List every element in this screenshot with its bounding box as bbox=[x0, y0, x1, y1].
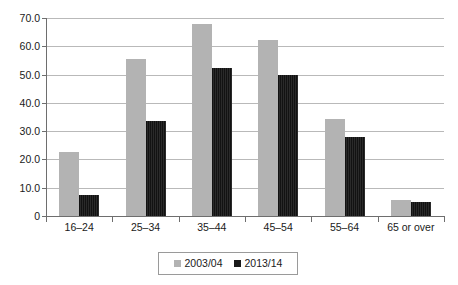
y-axis-tick-label: 30.0 bbox=[0, 126, 40, 136]
x-axis-group-tick bbox=[378, 217, 379, 222]
x-axis-tick-label: 35–44 bbox=[179, 221, 245, 233]
bar bbox=[278, 75, 298, 216]
gridline bbox=[46, 131, 444, 132]
x-axis-tick-label: 65 or over bbox=[378, 221, 444, 233]
y-axis-tick-label: 60.0 bbox=[0, 41, 40, 51]
y-axis-tick-label: 50.0 bbox=[0, 70, 40, 80]
bar bbox=[391, 200, 411, 216]
y-axis-tick-label: 0 bbox=[0, 211, 40, 221]
plot-area bbox=[46, 18, 444, 216]
x-axis-tick-label: 25–34 bbox=[112, 221, 178, 233]
x-axis-end-tick bbox=[46, 217, 47, 222]
x-axis-group-tick bbox=[112, 217, 113, 222]
legend: 2003/04 2013/14 bbox=[158, 252, 298, 275]
bar bbox=[345, 137, 365, 216]
bar bbox=[258, 40, 278, 216]
gridline bbox=[46, 75, 444, 76]
x-axis-tick-label: 16–24 bbox=[46, 221, 112, 233]
x-axis-group-tick bbox=[311, 217, 312, 222]
bar bbox=[212, 68, 232, 217]
gridline bbox=[46, 46, 444, 47]
bar bbox=[146, 121, 166, 216]
legend-swatch-icon-series-0 bbox=[174, 260, 181, 267]
bar bbox=[59, 152, 79, 216]
y-axis-tick-label: 70.0 bbox=[0, 13, 40, 23]
y-axis-tick-label: 10.0 bbox=[0, 183, 40, 193]
bar-chart: 70.060.050.040.030.020.010.00 16–2425–34… bbox=[0, 0, 458, 285]
bar bbox=[325, 119, 345, 216]
legend-item-series-1[interactable]: 2013/14 bbox=[234, 258, 283, 269]
bar bbox=[411, 202, 431, 216]
legend-swatch-icon-series-1 bbox=[234, 260, 241, 267]
bar bbox=[126, 59, 146, 216]
y-axis-line bbox=[46, 18, 47, 217]
y-axis-tick-label: 40.0 bbox=[0, 98, 40, 108]
gridline bbox=[46, 18, 444, 19]
y-axis-tick-label: 20.0 bbox=[0, 154, 40, 164]
x-axis-group-tick bbox=[245, 217, 246, 222]
bar bbox=[192, 24, 212, 216]
gridline bbox=[46, 188, 444, 189]
bar bbox=[79, 195, 99, 216]
legend-label-series-1: 2013/14 bbox=[245, 258, 283, 269]
x-axis-group-tick bbox=[179, 217, 180, 222]
legend-item-series-0[interactable]: 2003/04 bbox=[174, 258, 223, 269]
x-axis-end-tick bbox=[444, 217, 445, 222]
gridline bbox=[46, 103, 444, 104]
x-axis-tick-label: 45–54 bbox=[245, 221, 311, 233]
gridline bbox=[46, 159, 444, 160]
x-axis-tick-label: 55–64 bbox=[311, 221, 377, 233]
legend-label-series-0: 2003/04 bbox=[185, 258, 223, 269]
